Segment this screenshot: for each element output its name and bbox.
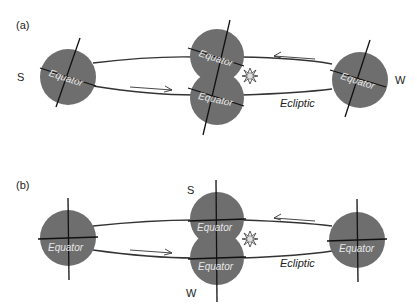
direction-label-w: W — [186, 287, 197, 299]
ecliptic-diagram: (a) S W Equator E — [0, 0, 417, 308]
globe-center: Equator Equator — [188, 180, 246, 302]
panel-a: (a) S W Equator E — [16, 19, 406, 135]
ecliptic-label: Ecliptic — [280, 97, 315, 109]
orbit-upper-left — [93, 57, 195, 63]
globe-right: Equator — [327, 199, 387, 282]
orbit-lower-right — [242, 89, 332, 95]
orbit-lower-left — [93, 86, 195, 95]
equator-label: Equator — [198, 261, 234, 272]
orbit-upper-right — [242, 220, 332, 226]
direction-label-w: W — [395, 74, 406, 86]
panel-a-label: (a) — [16, 19, 29, 31]
direction-label-s: S — [17, 71, 24, 83]
globe-right: Equator — [330, 40, 388, 117]
equator-label: Equator — [197, 222, 233, 233]
orbit-upper-left — [93, 220, 195, 226]
equator-label: Equator — [339, 243, 375, 254]
direction-label-s: S — [187, 184, 194, 196]
globe-left: Equator — [38, 198, 98, 280]
arrow-left-icon — [274, 214, 315, 221]
globe-center: Equator Equator — [188, 20, 244, 135]
orbit-upper-right — [240, 57, 332, 64]
panel-b-label: (b) — [16, 179, 29, 191]
panel-b: (b) S W Equator E — [16, 179, 387, 302]
arrow-left-icon — [274, 52, 315, 59]
sun-icon — [242, 231, 258, 247]
ecliptic-label: Ecliptic — [280, 257, 315, 269]
axis-line — [357, 199, 358, 282]
arrow-right-icon — [130, 249, 172, 255]
globe-left: Equator — [40, 38, 96, 107]
equator-label: Equator — [48, 242, 84, 253]
sun-icon — [242, 68, 258, 84]
